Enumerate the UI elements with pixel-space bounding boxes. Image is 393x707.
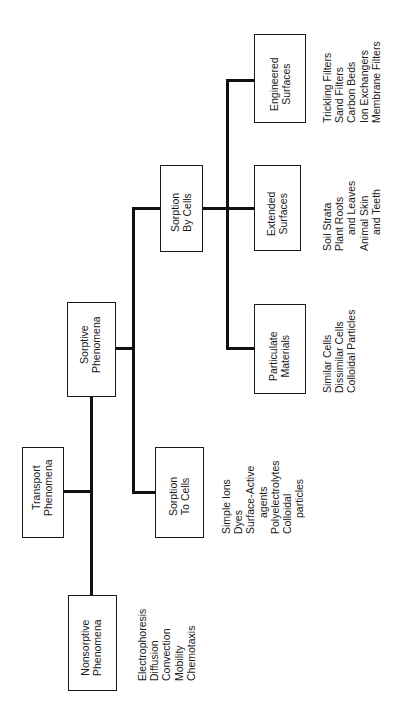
connector-to-engineered: [226, 79, 255, 82]
connector-by-cells-stem: [202, 207, 228, 210]
node-sorption-to-cells: Sorption To Cells: [155, 447, 204, 538]
list-item: Dyes: [232, 460, 244, 534]
node-label-line1: Engineered: [268, 57, 280, 111]
list-item: Plant Roots: [333, 181, 345, 251]
list-item: Ion Exchangers: [358, 41, 370, 123]
node-label-line2: Phenomena: [42, 459, 54, 516]
list-item: Polyelectrolytes: [269, 460, 281, 534]
node-transport-phenomena: Transport Phenomena: [22, 447, 64, 538]
node-label-line1: Sorption: [169, 193, 181, 232]
node-particulate-materials: Particulate Materials: [254, 304, 306, 394]
node-label-line2: To Cells: [179, 477, 191, 516]
node-label-line1: Sorption: [167, 477, 179, 516]
list-engineered-examples: Trickling Filters Sand Filters Carbon Be…: [321, 41, 382, 123]
list-item: Carbon Beds: [345, 41, 357, 123]
node-label-line1: Nonsorptive: [79, 619, 91, 676]
list-item: Surface-Active: [244, 460, 256, 534]
node-label-line2: Surfaces: [277, 192, 289, 236]
list-item: Sand Filters: [333, 41, 345, 123]
list-item: Convection: [160, 609, 172, 681]
node-label-line1: Extended: [265, 192, 277, 236]
list-item: Simple Ions: [220, 460, 232, 534]
connector-level1-spine: [90, 396, 93, 595]
node-sorption-by-cells: Sorption By Cells: [160, 165, 203, 252]
node-label-line2: Phenomena: [90, 316, 102, 373]
connector-to-sorption-by-cells: [132, 207, 161, 210]
list-item: Colloidal Particles: [345, 310, 357, 393]
list-item: and Leaves: [345, 181, 357, 251]
list-item: Trickling Filters: [321, 41, 333, 123]
list-item: Chemotaxis: [185, 609, 197, 681]
list-item: Soil Strata: [321, 181, 333, 251]
node-label-line1: Sorptive: [78, 316, 90, 373]
node-nonsorptive-phenomena: Nonsorptive Phenomena: [68, 595, 117, 691]
list-sorption-to-cells-examples: Simple Ions Dyes Surface-Active agents P…: [220, 460, 305, 534]
node-label-line1: Particulate: [267, 331, 279, 381]
connector-transport-stem: [63, 490, 92, 493]
list-item: Colloidal: [281, 460, 293, 534]
list-item: Mobility: [173, 609, 185, 681]
connector-level2-spine: [132, 207, 135, 493]
node-label-line2: By Cells: [181, 193, 193, 232]
list-item: and Teeth: [370, 181, 382, 251]
node-label-line2: Surfaces: [280, 57, 292, 111]
connector-to-particulate: [226, 347, 255, 350]
node-label-line1: Transport: [30, 459, 42, 516]
list-particulate-examples: Similar Cells Dissimilar Cells Colloidal…: [321, 310, 358, 393]
connector-level3-spine: [226, 79, 229, 350]
list-item: Diffusion: [148, 609, 160, 681]
list-item: Electrophoresis: [136, 609, 148, 681]
list-item: Membrane Filters: [370, 41, 382, 123]
node-label-line2: Phenomena: [91, 619, 103, 676]
connector-to-extended: [226, 207, 255, 210]
list-item: particles: [293, 460, 305, 534]
list-extended-examples: Soil Strata Plant Roots and Leaves Anima…: [321, 181, 382, 251]
list-item: Animal Skin: [358, 181, 370, 251]
node-engineered-surfaces: Engineered Surfaces: [254, 34, 306, 123]
list-nonsorptive-examples: Electrophoresis Diffusion Convection Mob…: [136, 609, 197, 681]
node-sorptive-phenomena: Sorptive Phenomena: [67, 302, 116, 397]
list-item: agents: [257, 460, 269, 534]
node-extended-surfaces: Extended Surfaces: [254, 165, 301, 251]
node-label-line2: Materials: [279, 331, 291, 381]
list-item: Similar Cells: [321, 310, 333, 393]
connector-to-sorption-to-cells: [132, 491, 156, 494]
list-item: Dissimilar Cells: [333, 310, 345, 393]
